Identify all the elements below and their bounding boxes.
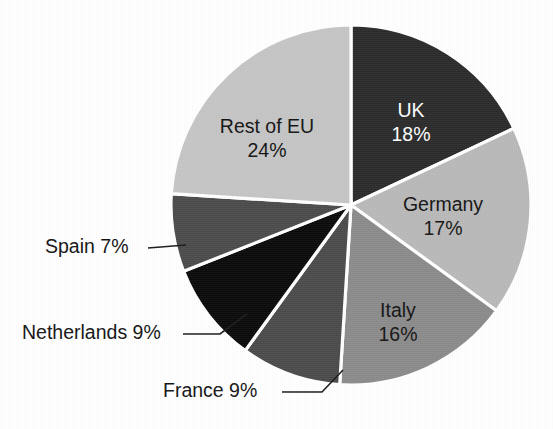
callout-label-france: France 9% [163, 379, 257, 401]
slice-label-value-rest-of-eu: 24% [247, 139, 286, 161]
slice-label-name-italy: Italy [380, 299, 416, 321]
slice-label-name-germany: Germany [403, 193, 483, 215]
slice-label-value-germany: 17% [423, 217, 462, 239]
pie-chart-svg: UK18%Germany17%Italy16%France 9%Netherla… [0, 0, 553, 429]
slice-label-name-rest-of-eu: Rest of EU [220, 115, 314, 137]
callout-label-netherlands: Netherlands 9% [22, 321, 161, 343]
callout-label-spain: Spain 7% [45, 235, 128, 257]
slice-label-value-uk: 18% [391, 123, 430, 145]
slice-label-value-italy: 16% [378, 323, 417, 345]
slice-label-name-uk: UK [397, 99, 424, 121]
pie-chart-figure: UK18%Germany17%Italy16%France 9%Netherla… [0, 0, 553, 429]
